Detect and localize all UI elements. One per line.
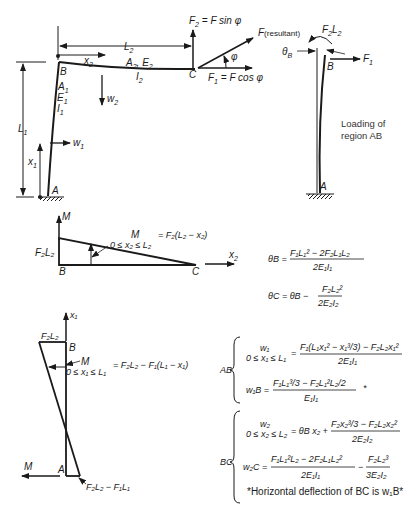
moment-label: F2L2 — [322, 24, 342, 37]
theta-b-lhs: θB = — [268, 254, 287, 264]
point-b-label: B — [60, 66, 67, 77]
ab-brace — [230, 337, 240, 403]
caption-line2: region AB — [341, 130, 382, 141]
w1b-asterisk: * — [363, 383, 367, 393]
theta-equations: θB = F₁L₁² − 2F₂L₁L₂ 2E₁I₁ θC = θB − F₂L… — [268, 248, 364, 308]
w2c-numerator-1: F₁L₁²L₂ − 2F₂L₁L₂² — [271, 454, 343, 464]
range-label: 0 ≤ x₂ ≤ L₂ — [110, 240, 152, 250]
moment-equation: = F₂(L₂ − x₂) — [158, 230, 207, 240]
w1-denominator: 2E₁I₁ — [337, 356, 357, 366]
f-resultant-label: F(resultant) — [258, 27, 300, 38]
theta-b-numerator: F₁L₁² − 2F₂L₁L₂ — [290, 248, 350, 258]
beam-inertia-label: I2 — [136, 71, 143, 84]
point-b-label: B — [69, 342, 76, 353]
f2-label: F2 = F sin φ — [189, 15, 242, 28]
w2c-lhs: w₂C = — [243, 462, 267, 472]
moment-equation: = F₂L₂ − F₁(L₁ − x₁) — [113, 360, 188, 370]
w2-label: w2 — [107, 93, 118, 106]
region-ab-loading: A B F2L2 θB F1 Loading of region AB — [282, 24, 386, 199]
w1-equals: = — [291, 348, 296, 358]
w1-range: 0 ≤ x₁ ≤ L₁ — [246, 353, 286, 363]
moment-diagram-ab: x₁ F₂L₂ B A M 0 ≤ x₁ ≤ L₁ = F₂L₂ − F₁(L₁… — [22, 310, 188, 492]
point-a-label: A — [51, 185, 59, 196]
theta-b-denominator: 2E₁I₁ — [312, 262, 332, 272]
angle-phi-arc — [224, 56, 226, 68]
w2-numerator: F₂x₂³/3 − F₂L₂x₂² — [331, 419, 398, 429]
w2-lhs: w₂ — [260, 419, 270, 429]
fixed-support-a — [40, 197, 62, 201]
w1-numerator: F₁(L₁x₁² − x₁³/3) − F₂L₂x₁² — [300, 342, 400, 352]
f1-label: F1 = F cos φ — [208, 72, 263, 85]
moment-diagram-bc: M F₂L₂ B C M 0 ≤ x₂ ≤ L₂ = F₂(L₂ − x₂) x… — [35, 211, 238, 277]
w2c-minus: − — [358, 462, 363, 472]
point-b-label: B — [327, 61, 334, 72]
deformed-column — [320, 55, 325, 193]
x1-label: x1 — [27, 156, 37, 169]
w2-equals: = θB x₂ + — [291, 426, 328, 436]
support-a — [308, 194, 332, 199]
theta-b-label: θB — [282, 46, 292, 59]
range-label: 0 ≤ x₁ ≤ L₁ — [66, 367, 106, 377]
x1-axis-label: x₁ — [69, 310, 78, 320]
m-axis-label: M — [24, 461, 33, 472]
m-axis-label: M — [62, 211, 71, 222]
caption-line1: Loading of — [341, 118, 386, 129]
w2-range: 0 ≤ x₂ ≤ L₂ — [246, 429, 288, 439]
point-a-label: A — [57, 464, 65, 475]
theta-c-denominator: 2E₂I₂ — [317, 298, 339, 308]
w1b-numerator: F₁L₁³/3 − F₂L₁²L₂/2 — [273, 378, 346, 388]
theta-c-lhs: θC = θB − — [268, 291, 308, 301]
angle-phi-label: φ — [231, 51, 238, 62]
w1-label: w1 — [73, 137, 84, 150]
w1b-lhs: w₁B = — [246, 385, 269, 395]
m-label: M — [81, 356, 90, 367]
w2c-numerator-2: F₂L₂³ — [368, 454, 389, 464]
point-b-label: B — [59, 266, 66, 277]
ab-equations: AB w₁ 0 ≤ x₁ ≤ L₁ = F₁(L₁x₁² − x₁³/3) − … — [219, 337, 402, 403]
left-value: F₂L₂ — [35, 247, 54, 258]
w1-lhs: w₁ — [260, 343, 269, 353]
point-c-label: C — [192, 266, 200, 277]
w2c-denominator-2: 3E₂I₂ — [366, 470, 387, 480]
theta-c-numerator: F₂L₂² — [322, 284, 343, 294]
l1-label: L1 — [18, 123, 28, 136]
point-c-label: C — [189, 69, 197, 80]
moment-arrow — [309, 36, 332, 44]
x2-axis-label: x2 — [228, 249, 238, 262]
frame-analysis-figure: L2 x2 A2, E2 I2 B C A A1 E1 I1 w2 w1 L1 … — [0, 0, 418, 510]
w2-denominator: 2E₂I₂ — [351, 434, 373, 444]
m-label: M — [131, 229, 140, 240]
moment-line — [39, 342, 80, 476]
l2-label: L2 — [124, 41, 134, 54]
bottom-value: F₂L₂ − F₁L₁ — [86, 482, 130, 492]
frame-diagram: L2 x2 A2, E2 I2 B C A A1 E1 I1 w2 w1 L1 … — [16, 26, 197, 201]
bc-equations: BC w₂ 0 ≤ x₂ ≤ L₂ = θB x₂ + F₂x₂³/3 − F₂… — [220, 411, 403, 503]
w1b-denominator: E₁I₁ — [304, 393, 318, 403]
f1-label: F1 — [363, 53, 373, 66]
top-value: F₂L₂ — [41, 331, 59, 341]
w2c-denominator-1: 2E₁I₁ — [300, 470, 320, 480]
footnote: *Horizontal deflection of BC is w₁B* — [247, 486, 403, 497]
point-a-label: A — [319, 181, 327, 192]
